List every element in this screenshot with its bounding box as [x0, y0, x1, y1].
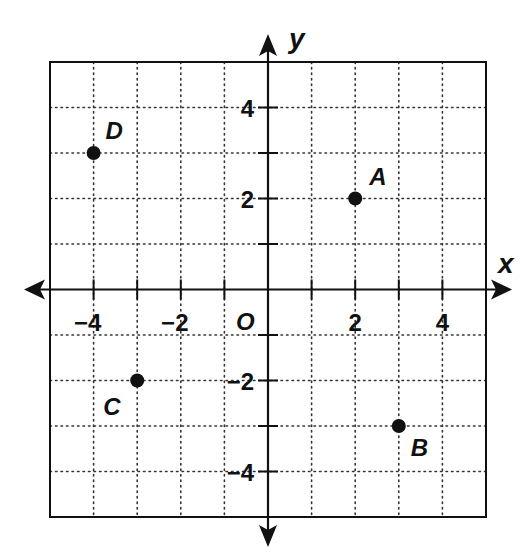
- x-tick-label: 2: [349, 309, 362, 336]
- point-d-label: D: [106, 117, 123, 144]
- point-b-marker: [392, 419, 406, 433]
- x-tick-label: 4: [436, 309, 450, 336]
- y-tick-label: −4: [227, 459, 255, 486]
- point-c-label: C: [103, 393, 121, 420]
- x-axis-label: x: [496, 248, 515, 279]
- point-a-label: A: [368, 163, 386, 190]
- point-d-marker: [87, 146, 101, 160]
- y-tick-label: 4: [241, 95, 255, 122]
- y-axis-label: y: [287, 23, 306, 54]
- x-tick-label: −4: [74, 309, 102, 336]
- point-c-marker: [130, 374, 144, 388]
- coordinate-plane: −4−22442−2−4 ABCD x y O: [0, 0, 526, 558]
- y-tick-label: −2: [227, 368, 254, 395]
- axes: [24, 34, 512, 547]
- y-tick-label: 2: [241, 186, 254, 213]
- point-a-marker: [348, 192, 362, 206]
- x-tick-label: −2: [161, 309, 188, 336]
- point-b-label: B: [411, 434, 428, 461]
- origin-label: O: [236, 308, 255, 335]
